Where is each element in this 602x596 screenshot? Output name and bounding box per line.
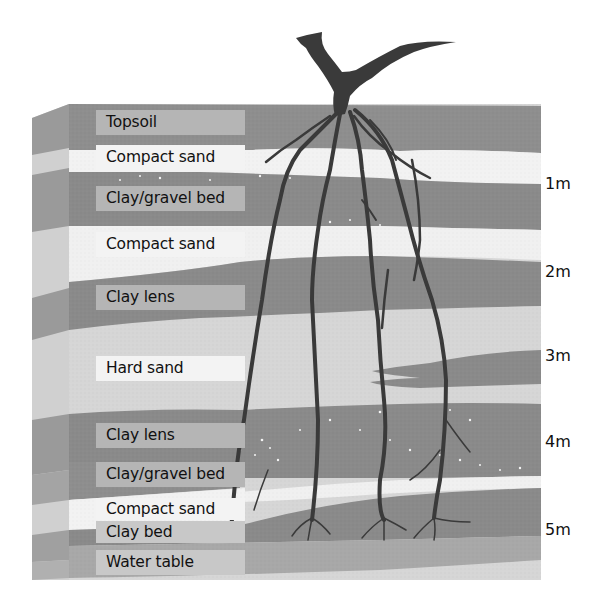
depth-marker-3m: 3m <box>545 346 571 365</box>
soil-layers-graphic <box>0 0 602 596</box>
label-compact-sand-2: Compact sand <box>96 232 245 257</box>
label-compact-sand-3: Compact sand <box>96 498 245 520</box>
stem-crown <box>296 32 456 116</box>
soil-profile-diagram: Topsoil Compact sand Clay/gravel bed Com… <box>0 0 602 596</box>
label-clay-bed: Clay bed <box>96 521 245 543</box>
label-clay-gravel-bed-1: Clay/gravel bed <box>96 186 245 211</box>
label-clay-gravel-bed-2: Clay/gravel bed <box>96 462 245 487</box>
depth-marker-4m: 4m <box>545 432 571 451</box>
label-topsoil: Topsoil <box>96 110 245 135</box>
label-water-table: Water table <box>96 550 245 575</box>
label-compact-sand-1: Compact sand <box>96 145 245 170</box>
side-face <box>32 104 69 580</box>
label-clay-lens-2: Clay lens <box>96 423 245 448</box>
depth-marker-2m: 2m <box>545 262 571 281</box>
label-hard-sand: Hard sand <box>96 356 245 381</box>
depth-marker-1m: 1m <box>545 174 571 193</box>
depth-marker-5m: 5m <box>545 520 571 539</box>
label-clay-lens-1: Clay lens <box>96 285 245 310</box>
